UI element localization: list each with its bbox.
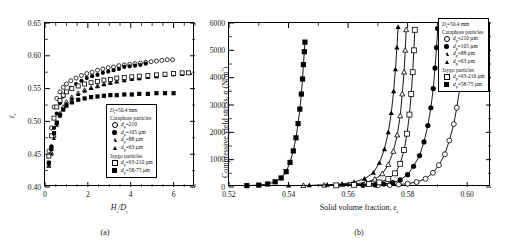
x-tick-label: 4 bbox=[129, 190, 133, 199]
y-tick-label: 0 bbox=[221, 183, 225, 192]
legend-item-cataphote-63-a: dp=63 µm bbox=[110, 145, 153, 153]
y-tick-label: 5000 bbox=[210, 46, 225, 55]
legend-item-jaygo-58-75-b: dp=58-75 µm bbox=[442, 82, 485, 90]
filled-circle-icon bbox=[110, 130, 119, 138]
legend-title-b: Dt=50.4 mm bbox=[442, 21, 485, 29]
series-filled-triangle bbox=[286, 24, 401, 187]
filled-circle-icon bbox=[442, 44, 451, 52]
y-tick-label: 0.60 bbox=[28, 51, 41, 60]
x-tick-label: 0.60 bbox=[461, 190, 474, 199]
y-tick-label: 6000 bbox=[210, 19, 225, 28]
x-tick-label: 0 bbox=[43, 190, 47, 199]
legend-a: Dt=50.4 mm Cataphote particles dp=210 dp… bbox=[106, 104, 157, 178]
legend-b: Dt=50.4 mm Cataphote particles dp=210 µm… bbox=[438, 18, 489, 92]
series-open-triangle bbox=[301, 27, 409, 187]
legend-title-a: Dt=50.4 mm bbox=[110, 107, 153, 115]
y-tick-label: 0.55 bbox=[28, 84, 41, 93]
y-axis-label-a: εs bbox=[8, 114, 17, 118]
panel-a: 02460.400.450.500.550.600.65 εs Hs/Dt (a… bbox=[0, 0, 210, 249]
y-tick-label: 0.50 bbox=[28, 117, 41, 126]
legend-item-cataphote-63-b: dp=63 µm bbox=[442, 59, 485, 67]
filled-square-icon bbox=[442, 82, 451, 90]
y-tick-label: 0.45 bbox=[28, 150, 41, 159]
y-tick-label: 0.40 bbox=[28, 183, 41, 192]
open-triangle-icon bbox=[110, 137, 119, 145]
open-triangle-icon bbox=[442, 51, 451, 59]
x-axis-label-b: Solid volume fraction, εs bbox=[228, 203, 490, 214]
filled-triangle-icon bbox=[442, 59, 451, 67]
figure-container: 02460.400.450.500.550.600.65 εs Hs/Dt (a… bbox=[0, 0, 508, 249]
x-tick-label: 6 bbox=[172, 190, 176, 199]
y-axis-label-b: Compressive yield stress, σy(N/m2) bbox=[220, 67, 231, 178]
filled-triangle-icon bbox=[110, 145, 119, 153]
x-tick-label: 0.58 bbox=[401, 190, 414, 199]
x-tick-label: 2 bbox=[86, 190, 90, 199]
x-tick-label: 0.54 bbox=[282, 190, 295, 199]
panel-b-caption: (b) bbox=[210, 228, 508, 237]
panel-b: 0.520.540.560.580.6001000200030004000500… bbox=[210, 0, 508, 249]
x-tick-label: 0.56 bbox=[341, 190, 354, 199]
y-tick-label: 0.65 bbox=[28, 19, 41, 28]
filled-square-icon bbox=[110, 168, 119, 176]
legend-label: dp=58-75 µm bbox=[121, 167, 150, 177]
legend-item-jaygo-58-75-a: dp=58-75 µm bbox=[110, 168, 153, 176]
series-filled-square bbox=[244, 40, 307, 189]
panel-a-caption: (a) bbox=[0, 228, 210, 237]
x-axis-label-a: Hs/Dt bbox=[44, 203, 194, 214]
legend-label: dp=58-75 µm bbox=[453, 81, 482, 91]
